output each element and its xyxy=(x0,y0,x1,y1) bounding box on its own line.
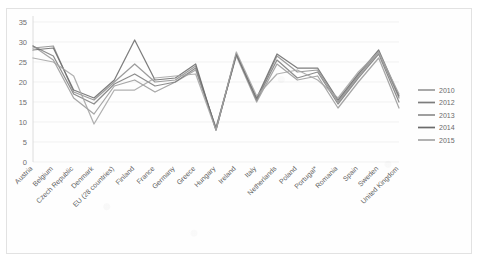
y-axis-tick-label: 0 xyxy=(23,158,27,167)
x-axis-category-label: Germany xyxy=(151,164,177,190)
x-axis-category-label: United Kingdom xyxy=(360,165,401,206)
y-axis-tick-label: 15 xyxy=(19,98,27,107)
x-axis-category-label: Romania xyxy=(314,165,339,190)
series-line-2013 xyxy=(33,46,399,130)
line-chart: 05101520253035 AustriaBelgiumCzech Repub… xyxy=(0,0,485,265)
y-axis-tick-label: 30 xyxy=(19,38,27,47)
chart-legend: 20102012201320142015 xyxy=(418,87,455,144)
y-axis-tick-label: 35 xyxy=(19,18,27,27)
x-axis-category-label: EU (28 countries) xyxy=(72,165,116,209)
x-axis-category-label: Ireland xyxy=(217,165,237,185)
series-line-2012 xyxy=(33,46,399,128)
legend-label-2012: 2012 xyxy=(439,99,455,106)
x-axis-category-label: Spain xyxy=(341,165,359,183)
series-line-2014 xyxy=(33,40,399,130)
series-line-2010 xyxy=(33,46,399,128)
y-axis-tick-label: 5 xyxy=(23,138,27,147)
y-axis-tick-label: 20 xyxy=(19,78,27,87)
legend-label-2013: 2013 xyxy=(439,112,455,119)
series-line-2015 xyxy=(33,52,399,130)
x-axis-category-label: Italy xyxy=(243,164,258,179)
series-lines-group xyxy=(33,40,399,130)
legend-label-2010: 2010 xyxy=(439,87,455,94)
y-axis-tick-label: 10 xyxy=(19,118,27,127)
y-axis-tick-label: 25 xyxy=(19,58,27,67)
chart-plot-area: 05101520253035 AustriaBelgiumCzech Repub… xyxy=(0,0,485,265)
x-axis-category-label: Hungary xyxy=(193,164,218,189)
legend-label-2015: 2015 xyxy=(439,137,455,144)
y-axis-tick-labels: 05101520253035 xyxy=(19,18,27,167)
gridlines-group xyxy=(33,16,399,162)
x-axis-category-labels: AustriaBelgiumCzech RepublicDenmarkEU (2… xyxy=(13,164,400,209)
x-axis-category-label: Finland xyxy=(114,165,135,186)
legend-label-2014: 2014 xyxy=(439,124,455,131)
